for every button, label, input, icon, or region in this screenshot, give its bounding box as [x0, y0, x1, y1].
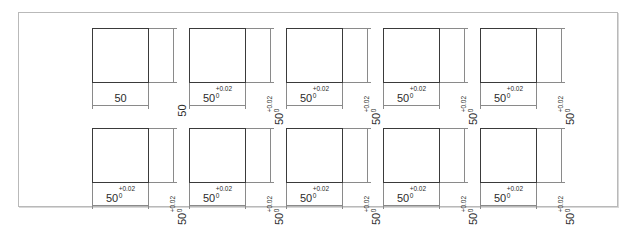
dimension-line: [480, 205, 537, 206]
dimension-value: 50+0.020: [465, 96, 479, 125]
dimensioned-square-figure: 50+0.02050+0.020: [189, 28, 301, 112]
dimension-nominal: 50: [494, 192, 506, 204]
tolerance-stack: +0.020: [364, 196, 378, 212]
width-dimension-text: 50+0.020: [189, 89, 246, 105]
dimension-value: 50+0.020: [300, 190, 329, 204]
dimensioned-square-figure: 50+0.02050+0.020: [286, 128, 398, 212]
tolerance-lower: 0: [468, 96, 475, 112]
dimension-nominal: 50: [397, 92, 409, 104]
width-dimension: 50+0.020: [92, 183, 149, 209]
square-part-outline: [189, 128, 246, 183]
tolerance-stack: +0.020: [313, 186, 329, 200]
dimension-nominal: 50: [467, 113, 479, 125]
dimension-value: 50+0.020: [397, 90, 426, 104]
dimension-nominal: 50: [564, 113, 576, 125]
tolerance-stack: +0.020: [410, 186, 426, 200]
tolerance-stack: +0.020: [216, 86, 232, 100]
tolerance-lower: 0: [371, 196, 378, 212]
tolerance-lower: 0: [274, 196, 281, 212]
dimension-value: 50+0.020: [368, 96, 382, 125]
dimension-line: [367, 128, 368, 183]
width-dimension-text: 50+0.020: [92, 189, 149, 205]
dimension-value: 50+0.020: [203, 90, 232, 104]
width-dimension: 50+0.020: [189, 83, 246, 109]
tolerance-lower: 0: [177, 196, 184, 212]
dimension-nominal: 50: [273, 213, 285, 222]
dimensioned-square-figure: 50+0.02050+0.020: [286, 28, 398, 112]
drawing-sheet: 505050+0.02050+0.02050+0.02050+0.02050+0…: [18, 12, 618, 207]
dimension-value: 50: [114, 93, 126, 104]
square-part-outline: [480, 128, 537, 183]
width-dimension: 50: [92, 83, 149, 109]
tolerance-stack: +0.020: [267, 96, 281, 112]
tolerance-stack: +0.020: [507, 86, 523, 100]
dimension-line: [173, 28, 174, 83]
tolerance-lower: 0: [313, 193, 329, 200]
dimension-line: [561, 28, 562, 83]
dimension-nominal: 50: [176, 104, 188, 116]
dimension-value: 50+0.020: [562, 196, 576, 222]
dimension-line: [561, 128, 562, 183]
dimension-value: 50+0.020: [562, 96, 576, 125]
dimension-nominal: 50: [176, 213, 188, 222]
tolerance-lower: 0: [410, 93, 426, 100]
dimension-value: 50+0.020: [271, 196, 285, 222]
tolerance-stack: +0.020: [216, 186, 232, 200]
height-dimension: 50+0.020: [343, 28, 371, 83]
height-dimension: 50+0.020: [246, 128, 274, 183]
dimension-value: 50+0.020: [368, 196, 382, 222]
width-dimension-text: 50+0.020: [286, 89, 343, 105]
tolerance-lower: 0: [468, 196, 475, 212]
dimension-nominal: 50: [300, 92, 312, 104]
square-part-outline: [480, 28, 537, 83]
dimension-value: 50+0.020: [203, 190, 232, 204]
dimension-value: 50+0.020: [465, 196, 479, 222]
tolerance-stack: +0.020: [364, 96, 378, 112]
tolerance-stack: +0.020: [410, 86, 426, 100]
dimension-nominal: 50: [564, 213, 576, 222]
tolerance-stack: +0.020: [558, 96, 572, 112]
dimension-line: [92, 105, 149, 106]
tolerance-lower: 0: [565, 196, 572, 212]
square-part-outline: [383, 128, 440, 183]
dimension-line: [480, 105, 537, 106]
height-dimension: 50+0.020: [246, 28, 274, 83]
width-dimension: 50+0.020: [286, 183, 343, 209]
tolerance-stack: +0.020: [558, 196, 572, 212]
dimensioned-square-figure: 50+0.02050+0.020: [92, 128, 204, 212]
dimension-line: [286, 205, 343, 206]
dimensioned-square-figure: 50+0.02050+0.020: [480, 28, 592, 112]
dimensioned-square-figure: 50+0.02050+0.020: [189, 128, 301, 212]
width-dimension-text: 50+0.020: [383, 89, 440, 105]
tolerance-lower: 0: [507, 193, 523, 200]
tolerance-stack: +0.020: [461, 96, 475, 112]
tolerance-lower: 0: [216, 193, 232, 200]
dimension-line: [92, 205, 149, 206]
width-dimension: 50+0.020: [383, 183, 440, 209]
tolerance-lower: 0: [313, 93, 329, 100]
dimension-line: [189, 105, 246, 106]
width-dimension-text: 50+0.020: [286, 189, 343, 205]
tolerance-lower: 0: [119, 193, 135, 200]
dimension-nominal: 50: [106, 192, 118, 204]
width-dimension-text: 50+0.020: [383, 189, 440, 205]
height-dimension: 50+0.020: [440, 128, 468, 183]
width-dimension-text: 50: [92, 89, 149, 105]
dimensioned-square-figure: 5050: [92, 28, 204, 112]
tolerance-stack: +0.020: [170, 196, 184, 212]
dimension-nominal: 50: [114, 92, 126, 104]
width-dimension-text: 50+0.020: [480, 89, 537, 105]
figure-grid: 505050+0.02050+0.02050+0.02050+0.02050+0…: [19, 13, 617, 206]
dimension-value: 50+0.020: [300, 90, 329, 104]
width-dimension: 50+0.020: [189, 183, 246, 209]
square-part-outline: [383, 28, 440, 83]
dimension-value: 50+0.020: [494, 90, 523, 104]
dimension-line: [367, 28, 368, 83]
dimension-nominal: 50: [467, 213, 479, 222]
width-dimension-text: 50+0.020: [480, 189, 537, 205]
dimension-value: 50+0.020: [271, 96, 285, 125]
dimension-value: 50+0.020: [397, 190, 426, 204]
dimension-nominal: 50: [494, 92, 506, 104]
width-dimension: 50+0.020: [383, 83, 440, 109]
dimension-nominal: 50: [370, 113, 382, 125]
